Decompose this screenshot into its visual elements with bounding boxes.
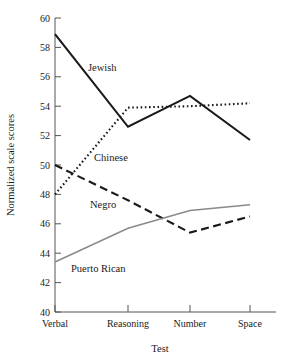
series-line-negro <box>55 165 250 233</box>
x-tick-group: VerbalReasoningNumberSpace <box>42 305 263 329</box>
series-label-negro: Negro <box>90 199 116 210</box>
x-tick-label: Verbal <box>42 318 68 329</box>
line-chart: 4042444648505254565860 VerbalReasoningNu… <box>0 0 281 361</box>
x-tick-label: Reasoning <box>107 318 149 329</box>
y-tick-label: 40 <box>40 307 50 318</box>
y-tick-label: 44 <box>40 248 50 259</box>
x-axis-title: Test <box>151 343 168 354</box>
y-axis-title: Normalized scale scores <box>5 114 16 216</box>
series-label-jewish: Jewish <box>88 62 117 73</box>
y-tick-label: 50 <box>40 160 50 171</box>
series-group <box>55 34 250 262</box>
y-tick-group: 4042444648505254565860 <box>40 13 61 318</box>
series-label-chinese: Chinese <box>94 152 128 163</box>
y-tick-label: 60 <box>40 13 50 24</box>
annotation-group: JewishChineseNegroPuerto Rican <box>71 62 128 274</box>
series-label-puerto-rican: Puerto Rican <box>71 263 126 274</box>
x-tick-label: Number <box>174 318 207 329</box>
chart-container: 4042444648505254565860 VerbalReasoningNu… <box>0 0 281 361</box>
series-line-chinese <box>55 103 250 194</box>
y-tick-label: 52 <box>40 130 50 141</box>
y-tick-label: 58 <box>40 42 50 53</box>
y-tick-label: 54 <box>40 101 50 112</box>
y-tick-label: 56 <box>40 71 50 82</box>
series-line-puerto-rican <box>55 205 250 262</box>
series-line-jewish <box>55 34 250 140</box>
y-tick-label: 46 <box>40 218 50 229</box>
y-tick-label: 42 <box>40 277 50 288</box>
y-tick-label: 48 <box>40 189 50 200</box>
x-tick-label: Space <box>238 318 262 329</box>
